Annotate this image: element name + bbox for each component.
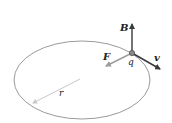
radius-line [33,79,80,103]
label-F: F [103,52,110,62]
charge-particle [129,50,134,55]
label-v: v [154,53,160,63]
label-r: r [59,89,63,98]
label-B: B [120,23,128,33]
diagram-graphics [0,0,172,123]
circular-motion-diagram: B F q v r [0,0,172,123]
label-q: q [128,58,134,67]
